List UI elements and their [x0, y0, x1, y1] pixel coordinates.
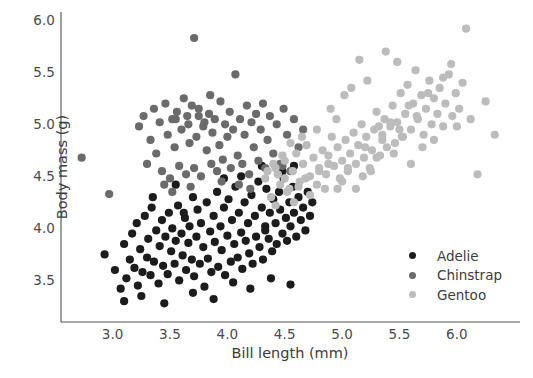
data-point — [195, 112, 203, 120]
data-point — [422, 105, 430, 113]
data-point — [355, 56, 363, 64]
data-point — [133, 219, 141, 227]
data-point — [156, 118, 164, 126]
data-point — [197, 172, 205, 180]
data-point — [126, 255, 134, 263]
data-point — [221, 120, 229, 128]
legend-item-gentoo[interactable]: Gentoo — [400, 285, 520, 305]
data-point — [78, 154, 86, 162]
data-point — [447, 60, 455, 68]
data-point — [299, 125, 307, 133]
data-point — [418, 143, 426, 151]
data-point — [324, 160, 332, 168]
data-point — [266, 209, 274, 217]
data-point — [150, 258, 158, 266]
data-point — [338, 177, 346, 185]
data-point — [188, 255, 196, 263]
x-tick-6.0: 6.0 — [446, 326, 468, 342]
data-point — [165, 209, 173, 217]
data-point — [160, 299, 168, 307]
data-point — [405, 102, 413, 110]
data-point — [386, 118, 394, 126]
data-point — [397, 89, 405, 97]
data-point — [347, 84, 355, 92]
data-point — [210, 295, 218, 303]
data-point — [389, 102, 397, 110]
data-point — [255, 243, 263, 251]
data-point — [346, 149, 354, 157]
y-tick-4.0: 4.0 — [33, 220, 55, 236]
data-point — [430, 136, 438, 144]
data-point — [174, 201, 182, 209]
legend-marker-gentoo — [409, 291, 416, 298]
data-point — [247, 118, 255, 126]
data-point — [262, 185, 270, 193]
data-point — [101, 250, 109, 258]
data-point — [172, 181, 180, 189]
data-point — [401, 110, 409, 118]
data-point — [267, 193, 275, 201]
data-point — [395, 125, 403, 133]
data-point — [218, 177, 226, 185]
data-point — [361, 143, 369, 151]
data-point — [158, 167, 166, 175]
data-point — [283, 131, 291, 139]
data-point — [207, 268, 215, 276]
data-point — [251, 212, 259, 220]
data-point — [308, 198, 316, 206]
data-point — [134, 281, 142, 289]
data-point — [439, 73, 447, 81]
data-point — [120, 240, 128, 248]
legend-item-chinstrap[interactable]: Chinstrap — [400, 266, 520, 286]
data-point — [298, 133, 306, 141]
data-point — [242, 237, 250, 245]
data-point — [420, 131, 428, 139]
data-point — [215, 141, 223, 149]
data-point — [452, 89, 460, 97]
data-point — [263, 136, 271, 144]
data-point — [459, 79, 467, 87]
data-point — [378, 136, 386, 144]
data-point — [467, 115, 475, 123]
data-point — [140, 112, 148, 120]
data-point — [168, 188, 176, 196]
data-point — [306, 212, 314, 220]
data-point — [156, 242, 164, 250]
data-point — [143, 253, 151, 261]
data-point — [117, 285, 125, 293]
data-point — [227, 164, 235, 172]
data-point — [283, 237, 291, 245]
data-point — [171, 260, 179, 268]
data-point — [425, 77, 433, 85]
data-point — [289, 167, 297, 175]
data-point — [436, 84, 444, 92]
data-point — [164, 270, 172, 278]
data-point — [105, 190, 113, 198]
data-point — [350, 129, 358, 137]
data-point — [179, 251, 187, 259]
data-point — [236, 115, 244, 123]
data-point — [257, 125, 265, 133]
data-point — [273, 120, 281, 128]
legend-item-adelie[interactable]: Adelie — [400, 246, 520, 266]
data-point — [226, 108, 234, 116]
data-point — [203, 198, 211, 206]
data-point — [146, 136, 154, 144]
data-point — [243, 102, 251, 110]
data-point — [204, 254, 212, 262]
data-point — [344, 164, 352, 172]
x-tick-5.5: 5.5 — [389, 326, 411, 342]
data-point — [275, 188, 283, 196]
data-point — [244, 219, 252, 227]
data-point — [241, 131, 249, 139]
data-point — [189, 289, 197, 297]
data-point — [199, 243, 207, 251]
data-point — [340, 91, 348, 99]
data-point — [321, 185, 329, 193]
data-point — [268, 247, 276, 255]
legend-label-chinstrap: Chinstrap — [437, 267, 502, 283]
data-point — [159, 262, 167, 270]
data-point — [390, 149, 398, 157]
data-point — [111, 266, 119, 274]
data-point — [175, 162, 183, 170]
